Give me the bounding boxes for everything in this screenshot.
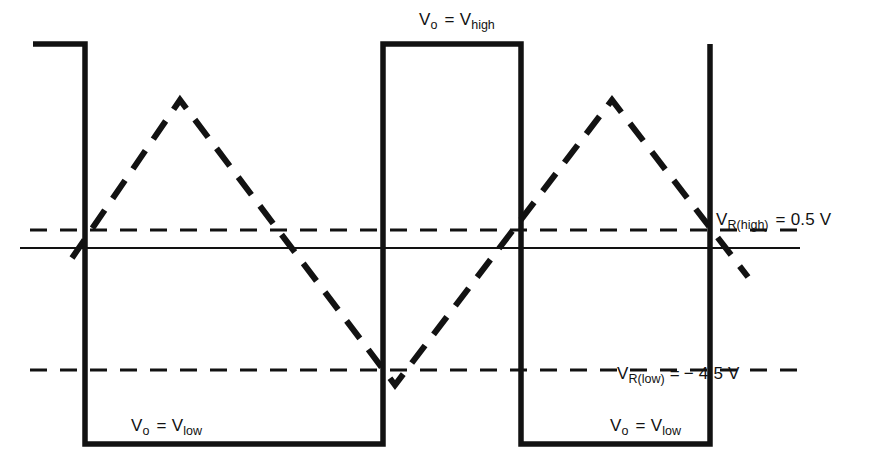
label-output-high-subscript: o (431, 18, 438, 32)
waveform-plot (0, 0, 889, 472)
input-triangular-waveform (72, 100, 748, 385)
label-output-low-right-subscript: o (622, 424, 629, 438)
label-threshold-vr-low-symbol: V (617, 364, 629, 383)
label-output-low-right-symbol: V (610, 416, 622, 435)
waveform-figure: Vo=Vhigh Vo=Vlow Vo=Vlow VR(high)=0.5 V … (0, 0, 889, 472)
label-output-low-left-value-symbol: V (172, 416, 184, 435)
label-output-low-left-equals: = (150, 416, 172, 435)
label-threshold-vr-high-symbol: V (716, 210, 728, 229)
label-threshold-vr-high-equals: = (769, 210, 791, 229)
label-output-high-value-subscript: high (471, 18, 495, 32)
label-output-low-left-symbol: V (131, 416, 143, 435)
label-output-low-right-equals: = (629, 416, 651, 435)
label-output-low-right-value-symbol: V (651, 416, 663, 435)
label-threshold-vr-low: VR(low)=− 4.5 V (617, 365, 740, 382)
label-threshold-vr-low-subscript: R(low) (629, 372, 665, 386)
label-threshold-vr-high-value: 0.5 V (791, 210, 832, 229)
label-output-high-equals: = (438, 10, 460, 29)
label-threshold-vr-low-value: − 4.5 V (684, 364, 740, 383)
label-threshold-vr-high-subscript: R(high) (728, 218, 769, 232)
label-output-low-left: Vo=Vlow (131, 417, 202, 434)
label-output-low-right-value-subscript: low (662, 424, 681, 438)
label-output-high-value-symbol: V (460, 10, 472, 29)
label-threshold-vr-low-equals: = (665, 364, 684, 383)
label-output-low-right: Vo=Vlow (610, 417, 681, 434)
label-output-high-symbol: V (419, 10, 431, 29)
label-threshold-vr-high: VR(high)=0.5 V (716, 211, 831, 228)
label-output-low-left-subscript: o (143, 424, 150, 438)
label-output-low-left-value-subscript: low (183, 424, 202, 438)
label-output-high: Vo=Vhigh (419, 11, 495, 28)
